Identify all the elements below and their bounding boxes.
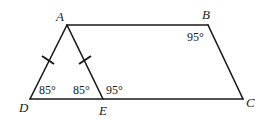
vertex-label-b: B [202, 7, 210, 22]
angle-label-b: 95° [187, 30, 204, 44]
vertex-label-e: E [98, 103, 107, 118]
angle-label-aec: 95° [106, 83, 123, 97]
vertex-label-a: A [55, 9, 64, 24]
vertex-label-c: C [246, 95, 255, 110]
vertex-label-d: D [18, 100, 29, 115]
geometry-diagram: A B C D E 85° 85° 95° 95° [0, 0, 269, 120]
angle-label-aed: 85° [73, 83, 90, 97]
angle-label-d: 85° [39, 83, 56, 97]
segment-bc [208, 25, 243, 99]
